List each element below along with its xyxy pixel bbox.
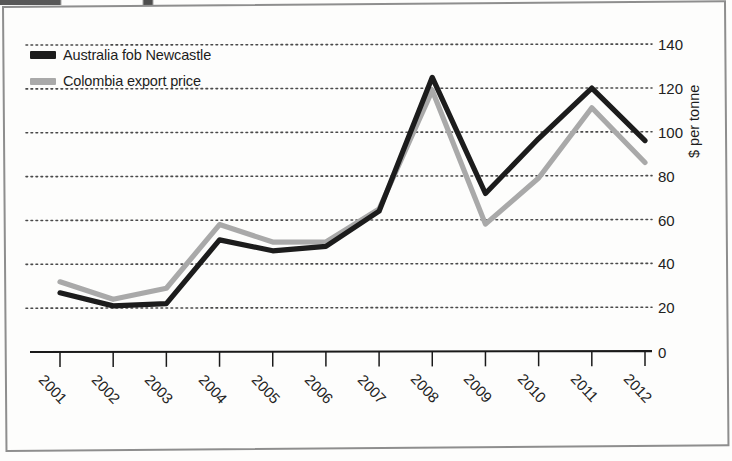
legend-swatch-grey-icon xyxy=(30,78,56,85)
y-axis-tick-0: 0 xyxy=(658,344,666,361)
gridline-60 xyxy=(26,220,652,221)
y-axis-tick-40: 40 xyxy=(658,255,675,272)
y-axis-tick-140: 140 xyxy=(658,36,683,53)
y-axis-tick-100: 100 xyxy=(658,123,683,140)
y-axis-tick-80: 80 xyxy=(658,167,675,184)
chart-legend: Australia fob Newcastle Colombia export … xyxy=(30,44,260,96)
y-axis-title: $ per tonne xyxy=(686,85,702,158)
legend-label-colombia: Colombia export price xyxy=(63,73,201,89)
legend-item-australia: Australia fob Newcastle xyxy=(30,44,260,66)
y-axis-tick-120: 120 xyxy=(658,79,683,96)
series-line-australia xyxy=(60,77,645,306)
x-axis-line xyxy=(30,351,652,352)
gridline-100 xyxy=(26,132,652,133)
gridline-80 xyxy=(26,176,652,177)
y-axis-tick-20: 20 xyxy=(658,299,675,316)
y-axis-tick-60: 60 xyxy=(658,211,675,228)
legend-item-colombia: Colombia export price xyxy=(30,70,260,92)
gridline-40 xyxy=(26,263,652,264)
legend-swatch-black-icon xyxy=(30,51,56,59)
legend-label-australia: Australia fob Newcastle xyxy=(63,47,211,63)
